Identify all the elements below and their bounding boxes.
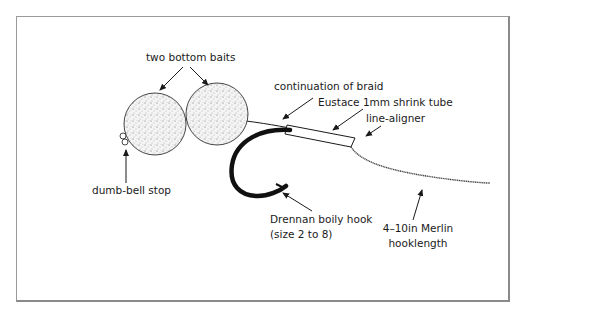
label-hooklength-line1: 4–10in Merlin — [378, 222, 458, 235]
label-bottom-baits: two bottom baits — [146, 51, 235, 64]
label-line-aligner: line-aligner — [366, 112, 425, 125]
label-hook-name: Drennan boily hook — [270, 213, 372, 226]
bottom-bait-1 — [124, 93, 186, 155]
label-shrink-tube: Eustace 1mm shrink tube — [318, 96, 453, 109]
bottom-bait-2 — [186, 83, 248, 145]
arrow-line-aligner — [366, 126, 381, 136]
rig-drawing — [0, 0, 594, 322]
arrow-bait-1 — [160, 67, 183, 90]
label-braid: continuation of braid — [274, 80, 384, 93]
arrow-shrink-tube — [333, 109, 363, 130]
arrow-bait-2 — [190, 67, 208, 85]
hooklength-line — [351, 147, 490, 183]
label-hook-size: (size 2 to 8) — [270, 228, 332, 241]
arrow-hooklength — [413, 190, 422, 220]
shrink-tube — [285, 125, 355, 147]
arrow-braid — [283, 98, 313, 119]
label-dumbbell-stop: dumb-bell stop — [92, 184, 171, 197]
label-hooklength-line2: hooklength — [378, 237, 458, 250]
arrow-hook — [283, 193, 312, 211]
